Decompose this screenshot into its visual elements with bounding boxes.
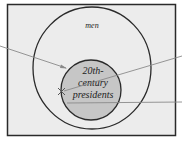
euler-diagram: men 20th- century presidents <box>0 0 182 149</box>
men-label: men <box>85 21 98 30</box>
presidents-label-line-3: presidents <box>72 89 114 100</box>
presidents-label-line-1: 20th- <box>82 65 103 76</box>
